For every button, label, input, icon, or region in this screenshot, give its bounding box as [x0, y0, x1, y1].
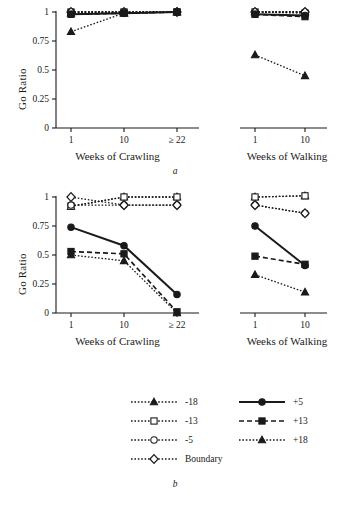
panel-a-plot: 10.750.50.250110≥ 22110: [0, 0, 350, 160]
panel-a-y-axis-label: Go Ratio: [16, 68, 28, 110]
data-point: [121, 194, 127, 200]
legend-label: -5: [185, 435, 193, 445]
legend-item-plus5[interactable]: +5: [238, 396, 303, 408]
panel-b-x-axis-label-crawling: Weeks of Crawling: [30, 335, 205, 347]
legend-key-icon: [238, 396, 286, 408]
panel-a-y-tick-label: 0.75: [32, 36, 49, 46]
panel-a-x-tick-label: 1: [253, 135, 258, 145]
legend-key-icon: [238, 415, 286, 427]
series-Boundary: [251, 201, 309, 218]
panel-b-x-axis-label-walking: Weeks of Walking: [228, 335, 346, 347]
panel-b-plot: 10.750.50.250110≥ 22110: [0, 185, 350, 345]
data-point: [67, 28, 74, 35]
panel-a-y-tick-label: 0: [44, 123, 49, 133]
legend-key-icon: [130, 415, 178, 427]
data-point: [252, 194, 258, 200]
legend-marker-square-open: [151, 418, 157, 424]
legend-label: -13: [185, 416, 198, 426]
panel-a-caption: a: [0, 166, 350, 176]
figure-root: Go Ratio 10.750.50.250110≥ 22110 Weeks o…: [0, 0, 350, 505]
legend-marker-diamond-open: [150, 455, 158, 464]
panel-b-x-tick-label: ≥ 22: [168, 320, 185, 330]
legend-label: Boundary: [185, 454, 222, 464]
series-plus18: [67, 8, 180, 34]
data-point: [252, 223, 258, 229]
legend-label: +18: [293, 435, 308, 445]
data-point: [302, 14, 308, 20]
data-point: [252, 11, 258, 17]
legend-item-plus13[interactable]: +13: [238, 415, 308, 427]
data-point: [68, 11, 74, 17]
series-plus5: [252, 223, 308, 269]
legend-marker-circle-filled: [259, 399, 265, 405]
legend-key-icon: [238, 434, 286, 446]
legend-label: -18: [185, 397, 198, 407]
series-plus18: [251, 51, 308, 78]
legend-marker-circle-open: [151, 437, 157, 443]
data-point: [173, 201, 181, 210]
panel-b-caption: b: [0, 479, 350, 489]
series-line: [255, 196, 305, 197]
panel-a-y-tick-label: 0.5: [37, 65, 49, 75]
legend-label: +5: [293, 397, 303, 407]
legend-key-icon: [130, 434, 178, 446]
series-line: [255, 205, 305, 213]
series-plus18: [67, 251, 180, 316]
panel-a-y-tick-label: 0.25: [32, 94, 49, 104]
series-line: [255, 275, 305, 292]
legend-item-plus18[interactable]: +18: [238, 434, 308, 446]
panel-b-y-axis-label: Go Ratio: [16, 253, 28, 295]
data-point: [67, 193, 75, 202]
legend-key-icon: [130, 453, 178, 465]
panel-a-x-tick-label: ≥ 22: [168, 135, 185, 145]
panel-a-y-tick-label: 1: [44, 7, 49, 17]
legend-item-minus18[interactable]: -18: [130, 396, 198, 408]
data-point: [120, 201, 128, 210]
panel-b-y-tick-label: 0.25: [32, 279, 49, 289]
panel-b-x-tick-label: 1: [69, 320, 74, 330]
series-line: [255, 55, 305, 76]
data-point: [120, 257, 127, 264]
data-point: [251, 271, 258, 278]
legend-marker-square-filled: [259, 418, 265, 424]
panel-a-x-tick-label: 1: [69, 135, 74, 145]
series-plus18: [251, 271, 308, 295]
panel-b: Go Ratio 10.750.50.250110≥ 22110 Weeks o…: [0, 185, 350, 385]
panel-b-x-tick-label: 10: [300, 320, 310, 330]
data-point: [252, 253, 258, 259]
data-point: [251, 51, 258, 58]
panel-a-x-tick-label: 10: [300, 135, 310, 145]
data-point: [302, 193, 308, 199]
panel-b-y-tick-label: 0.5: [37, 250, 49, 260]
panel-b-y-tick-label: 1: [44, 192, 49, 202]
series-minus13: [252, 193, 308, 200]
panel-b-x-tick-label: 1: [253, 320, 258, 330]
panel-a-x-axis-label-walking: Weeks of Walking: [228, 150, 346, 162]
data-point: [251, 201, 259, 210]
legend-item-minus13[interactable]: -13: [130, 415, 198, 427]
panel-b-y-tick-label: 0.75: [32, 221, 49, 231]
data-point: [301, 288, 308, 295]
legend-label: +13: [293, 416, 308, 426]
panel-b-x-tick-label: 10: [119, 320, 129, 330]
legend-item-boundary[interactable]: Boundary: [130, 453, 222, 465]
data-point: [68, 224, 74, 230]
data-point: [302, 261, 308, 267]
legend-key-icon: [130, 396, 178, 408]
data-point: [301, 209, 309, 218]
legend: -18-13-5Boundary+5+13+18: [130, 396, 350, 476]
panel-a-x-tick-label: 10: [119, 135, 129, 145]
legend-item-minus5[interactable]: -5: [130, 434, 193, 446]
data-point: [68, 202, 74, 208]
data-point: [121, 243, 127, 249]
data-point: [174, 291, 180, 297]
panel-a-x-axis-label-crawling: Weeks of Crawling: [30, 150, 205, 162]
panel-b-y-tick-label: 0: [44, 308, 49, 318]
panel-a: Go Ratio 10.750.50.250110≥ 22110 Weeks o…: [0, 0, 350, 185]
data-point: [174, 194, 180, 200]
